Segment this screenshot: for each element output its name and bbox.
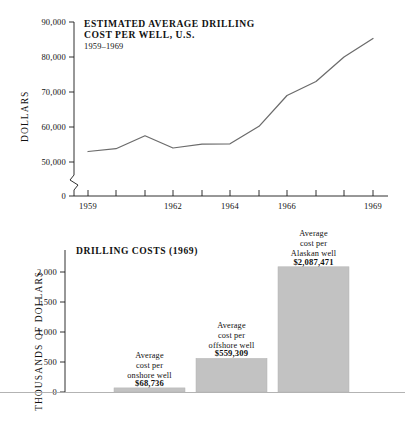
line-y-tick-label-50000: 50,000 — [41, 157, 66, 167]
bar-chart-title: DRILLING COSTS (1969) — [76, 245, 198, 257]
line-x-tick-label-1959: 1959 — [79, 201, 97, 211]
line-y-tick-label-0: 0 — [62, 191, 66, 201]
line-x-tick-label-1969: 1969 — [364, 201, 382, 211]
line-chart-title-line2: COST PER WELL, U.S. — [84, 29, 195, 40]
line-chart-panel: DOLLARS 90,000 80,000 70,000 60,000 50,0… — [0, 0, 405, 222]
bar-y-tick-label-1500: 1,500 — [37, 297, 57, 307]
line-y-tick-label-90000: 90,000 — [41, 17, 66, 27]
drilling-costs-figure: DOLLARS 90,000 80,000 70,000 60,000 50,0… — [0, 0, 405, 440]
bar-alaskan — [278, 267, 349, 392]
line-x-tick-label-1964: 1964 — [221, 201, 239, 211]
bar-y-tick-label-500: 500 — [44, 357, 57, 367]
bar-chart-y-axis-title: THOUSANDS OF DOLLARS — [34, 271, 44, 411]
bar-chart-panel: THOUSANDS OF DOLLARS 2,000 1,500 1,000 5… — [0, 222, 405, 440]
bar-offshore-note-line1: Average — [217, 321, 246, 330]
bar-chart-svg: THOUSANDS OF DOLLARS 2,000 1,500 1,000 5… — [0, 222, 405, 440]
bar-onshore — [114, 388, 185, 392]
bar-y-tick-label-0: 0 — [53, 387, 57, 397]
bar-offshore — [196, 358, 267, 392]
bar-alaskan-note-line1: Average — [299, 229, 328, 238]
line-chart-data-series — [88, 39, 373, 152]
line-chart-y-axis-title: DOLLARS — [20, 90, 30, 142]
line-x-tick-label-1966: 1966 — [278, 201, 296, 211]
line-y-tick-label-60000: 60,000 — [41, 122, 66, 132]
line-chart-title-line1: ESTIMATED AVERAGE DRILLING — [84, 18, 255, 29]
line-chart-svg: DOLLARS 90,000 80,000 70,000 60,000 50,0… — [0, 0, 405, 222]
line-x-tick-label-1962: 1962 — [164, 201, 182, 211]
bar-offshore-value: $559,309 — [215, 348, 248, 358]
bar-alaskan-value: $2,087,471 — [293, 257, 333, 267]
bar-onshore-note-line2: cost per — [136, 361, 163, 370]
bar-y-tick-label-1000: 1,000 — [37, 327, 57, 337]
line-chart-axis-break-icon — [70, 175, 78, 196]
bar-offshore-note-line2: cost per — [218, 331, 245, 340]
line-y-tick-label-70000: 70,000 — [41, 87, 66, 97]
line-chart-subtitle: 1959–1969 — [84, 42, 124, 51]
bar-onshore-note-line1: Average — [135, 351, 164, 360]
bar-y-tick-label-2000: 2,000 — [37, 267, 57, 277]
line-y-tick-label-80000: 80,000 — [41, 52, 66, 62]
bar-alaskan-note-line2: cost per — [300, 239, 327, 248]
bar-onshore-value: $68,736 — [135, 378, 165, 388]
